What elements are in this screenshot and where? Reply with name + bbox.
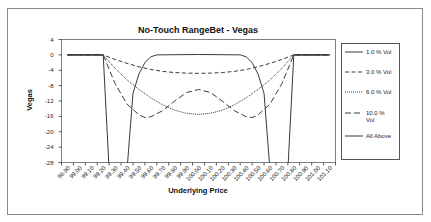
chart: No-Touch RangeBet - Vegas 40-4-8-12-16-2… bbox=[0, 0, 431, 222]
legend-label: All Above bbox=[366, 133, 392, 139]
legend-label: 1.0 % Vol bbox=[366, 49, 391, 55]
legend-label: 6.0 % Vol bbox=[366, 89, 391, 95]
y-axis-label: Vegas bbox=[25, 89, 34, 111]
legend bbox=[342, 44, 400, 160]
y-tick-label: -12 bbox=[45, 98, 54, 104]
y-tick-label: -8 bbox=[48, 83, 54, 89]
plot-area bbox=[62, 40, 336, 163]
y-tick-label: -28 bbox=[45, 160, 54, 166]
chart-title: No-Touch RangeBet - Vegas bbox=[138, 25, 258, 35]
y-tick-label: -20 bbox=[45, 129, 54, 135]
x-axis-label: Underlying Price bbox=[168, 186, 228, 195]
legend-label: 3.0 % Vol bbox=[366, 69, 391, 75]
y-tick-label: -24 bbox=[45, 144, 54, 150]
y-tick-label: -4 bbox=[48, 67, 54, 73]
y-tick-label: -16 bbox=[45, 113, 54, 119]
